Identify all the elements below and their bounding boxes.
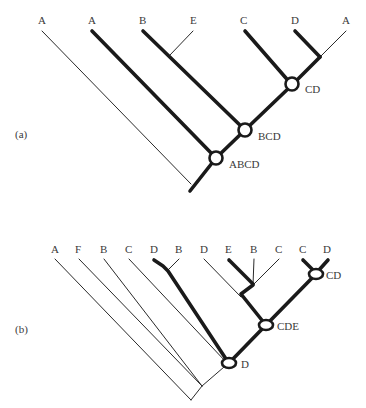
node-label-bcd: BCD <box>258 130 281 142</box>
node-label-cd-a: CD <box>305 83 320 95</box>
node-label-cd-b: CD <box>326 269 341 281</box>
branch-b-c3 <box>303 260 313 270</box>
node-d <box>222 358 236 368</box>
node-label-abcd: ABCD <box>229 158 260 170</box>
node-abcd <box>210 152 223 165</box>
branch-b-d1 <box>154 260 228 362</box>
panel-b: A F B C D B D E B C C D CD C <box>15 243 341 400</box>
taxon-label-b-d3: D <box>323 243 331 255</box>
branch-c <box>245 31 292 85</box>
taxon-label-b-b1: B <box>100 243 107 255</box>
taxon-label-b: B <box>139 14 146 26</box>
branch-b <box>143 31 245 130</box>
branch-b-a <box>55 259 191 400</box>
branch-b-c2 <box>253 259 279 285</box>
taxon-label-b-c3: C <box>299 243 306 255</box>
branch-b-b3 <box>253 259 254 285</box>
node-cde <box>259 320 273 330</box>
taxon-label-a1: A <box>38 14 46 26</box>
taxon-label-b-a: A <box>51 243 59 255</box>
taxon-label-b-b2: B <box>175 243 182 255</box>
root-b <box>191 367 224 400</box>
panel-label-a: (a) <box>15 128 28 141</box>
taxon-label-b-c1: C <box>125 243 132 255</box>
taxon-label-d: D <box>291 14 299 26</box>
branch-b-f <box>79 259 202 386</box>
node-label-d: D <box>241 358 249 370</box>
spine-b <box>229 274 316 363</box>
panel-label-b: (b) <box>15 323 28 336</box>
node-label-cde: CDE <box>277 320 299 332</box>
node-cd-b <box>309 269 323 279</box>
branch-a2 <box>92 31 216 158</box>
taxon-label-a3: A <box>342 14 350 26</box>
cladogram-figure: A A B E C D A CD BCD ABCD (a) A F B C D <box>0 0 366 408</box>
branch-d <box>295 31 320 57</box>
taxon-label-b-d1: D <box>150 243 158 255</box>
branch-e <box>170 31 193 55</box>
branch-b-b1 <box>104 259 202 386</box>
panel-a: A A B E C D A CD BCD ABCD (a) <box>15 14 350 191</box>
taxon-label-c: C <box>240 14 247 26</box>
taxon-label-b-b3: B <box>250 243 257 255</box>
taxon-label-a2: A <box>88 14 96 26</box>
taxon-label-e: E <box>190 14 197 26</box>
branch-b-e <box>229 260 253 284</box>
taxon-label-b-d2: D <box>200 243 208 255</box>
spine-a <box>190 57 320 191</box>
node-bcd <box>239 124 252 137</box>
taxon-label-b-c2: C <box>275 243 282 255</box>
branch-b-edb <box>241 285 265 324</box>
branch-a3 <box>320 31 346 57</box>
taxon-label-b-e: E <box>225 243 232 255</box>
branch-b-b2 <box>168 259 179 270</box>
taxon-label-b-f: F <box>75 243 81 255</box>
node-cd-a <box>286 78 299 91</box>
